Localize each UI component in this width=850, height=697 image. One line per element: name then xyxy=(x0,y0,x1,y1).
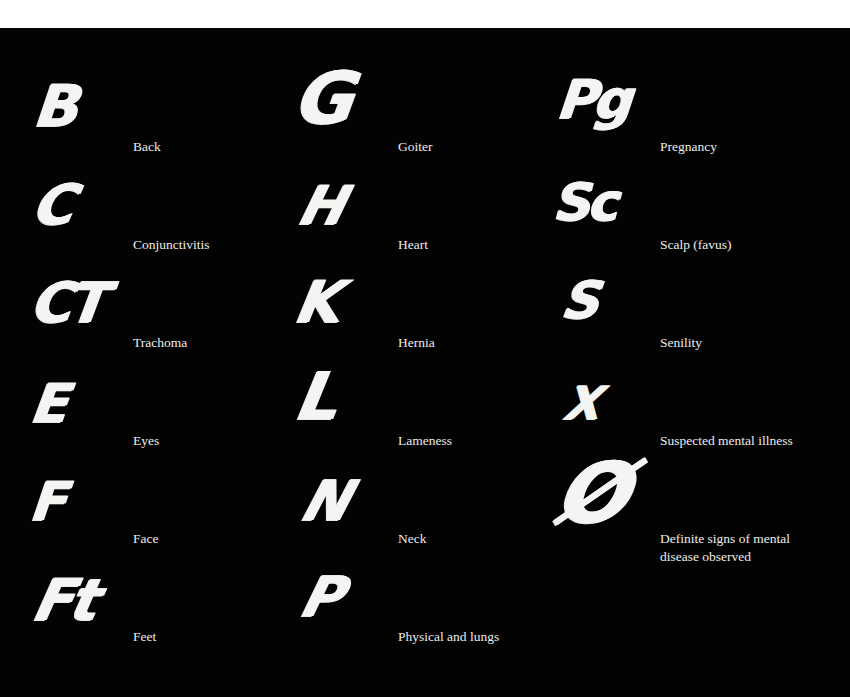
chalk-glyph-p: P xyxy=(297,564,353,629)
code-label: Back xyxy=(133,138,161,156)
code-entry-definite-mental-disease: Ø Definite signs of mental disease obser… xyxy=(548,464,838,574)
code-label: Feet xyxy=(133,628,156,646)
code-entry-pregnancy: Pg Pregnancy xyxy=(555,72,835,170)
chalk-glyph-c: C xyxy=(30,172,83,237)
code-entry-face: F Face xyxy=(30,464,270,562)
chalk-glyph-x: X xyxy=(563,376,606,430)
code-label: Eyes xyxy=(133,432,159,450)
chalk-glyph-k: K xyxy=(293,268,348,336)
code-label: Conjunctivitis xyxy=(133,236,210,254)
code-entry-heart: H Heart xyxy=(293,170,533,268)
code-label: Neck xyxy=(398,530,426,548)
code-entry-goiter: G Goiter xyxy=(293,72,533,170)
code-entry-senility: S Senility xyxy=(555,268,835,366)
top-white-strip xyxy=(0,0,850,28)
code-label: Definite signs of mental disease observe… xyxy=(660,530,820,566)
code-entry-trachoma: CT Trachoma xyxy=(30,268,270,366)
code-label: Heart xyxy=(398,236,428,254)
code-label: Trachoma xyxy=(133,334,187,352)
code-label: Hernia xyxy=(398,334,435,352)
code-entry-lameness: L Lameness xyxy=(293,366,533,464)
code-entry-hernia: K Hernia xyxy=(293,268,533,366)
chalk-glyph-h: H xyxy=(295,174,354,237)
code-label: Goiter xyxy=(398,138,433,156)
code-entry-feet: Ft Feet xyxy=(30,562,270,660)
chalk-glyph-sc: Sc xyxy=(555,172,619,232)
code-label: Lameness xyxy=(398,432,452,450)
code-label: Pregnancy xyxy=(660,138,717,156)
code-label: Scalp (favus) xyxy=(660,236,732,254)
code-label: Physical and lungs xyxy=(398,628,499,646)
code-entry-eyes: E Eyes xyxy=(30,366,270,464)
chalk-glyph-f: F xyxy=(30,470,72,533)
code-entry-conjunctivitis: C Conjunctivitis xyxy=(30,170,270,268)
code-label: Senility xyxy=(660,334,702,352)
chalk-glyph-pg: Pg xyxy=(557,68,636,131)
chalk-glyph-l: L xyxy=(293,358,347,435)
chalk-glyph-ct: CT xyxy=(30,270,113,335)
chalk-glyph-n: N xyxy=(297,468,361,533)
code-entry-physical-and-lungs: P Physical and lungs xyxy=(293,562,533,660)
inspection-codes-panel: B Back C Conjunctivitis CT Trachoma E Ey… xyxy=(0,28,850,697)
chalk-glyph-s: S xyxy=(561,270,605,330)
code-entry-back: B Back xyxy=(30,72,270,170)
code-label: Face xyxy=(133,530,158,548)
code-label: Suspected mental illness xyxy=(660,432,793,450)
chalk-glyph-e: E xyxy=(30,372,74,435)
chalk-glyph-ft: Ft xyxy=(30,566,106,634)
chalk-glyph-b: B xyxy=(34,72,84,140)
code-entry-scalp-favus: Sc Scalp (favus) xyxy=(555,170,835,268)
chalk-glyph-g: G xyxy=(293,56,363,140)
code-entry-neck: N Neck xyxy=(293,464,533,562)
